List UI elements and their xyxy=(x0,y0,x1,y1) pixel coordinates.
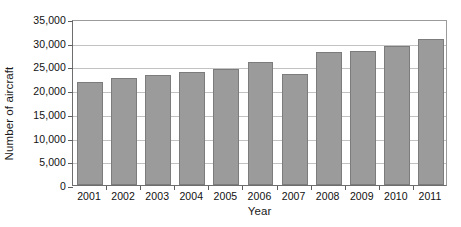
y-axis-tick xyxy=(68,116,73,117)
bar-chart-figure: Number of aircraft 05,00010,00015,00020,… xyxy=(0,0,461,227)
y-axis-tick-label: 15,000 xyxy=(0,109,66,121)
x-axis-title: Year xyxy=(72,205,447,217)
y-axis-tick xyxy=(68,92,73,93)
bar xyxy=(111,78,137,185)
bar xyxy=(384,46,410,185)
x-axis-tick-label: 2006 xyxy=(248,190,272,202)
y-axis-tick-label: 35,000 xyxy=(0,14,66,26)
plot-area xyxy=(72,20,447,186)
bar xyxy=(418,39,444,185)
x-axis-tick-label: 2007 xyxy=(282,190,306,202)
x-axis-tick-label: 2009 xyxy=(350,190,374,202)
bar xyxy=(316,52,342,185)
x-axis-tick-label: 2001 xyxy=(77,190,101,202)
bar xyxy=(350,51,376,185)
x-axis-tick-label: 2004 xyxy=(179,190,203,202)
y-axis-tick-labels: 05,00010,00015,00020,00025,00030,00035,0… xyxy=(0,20,66,186)
y-axis-tick xyxy=(68,140,73,141)
y-axis-tick xyxy=(68,45,73,46)
y-axis-tick-label: 0 xyxy=(0,180,66,192)
y-axis-tick-label: 5,000 xyxy=(0,156,66,168)
y-axis-tick xyxy=(68,21,73,22)
y-axis-tick-label: 20,000 xyxy=(0,85,66,97)
x-axis-tick-label: 2011 xyxy=(418,190,441,202)
x-axis-tick-label: 2005 xyxy=(214,190,238,202)
bar xyxy=(77,82,103,185)
y-axis-tick-label: 30,000 xyxy=(0,38,66,50)
bar xyxy=(248,62,274,185)
y-axis-tick xyxy=(68,163,73,164)
x-axis-tick-label: 2010 xyxy=(384,190,408,202)
x-axis-tick-label: 2003 xyxy=(145,190,169,202)
bar xyxy=(145,75,171,185)
x-axis-tick-labels: 2001200220032004200520062007200820092010… xyxy=(72,190,447,206)
x-axis-tick-label: 2008 xyxy=(316,190,340,202)
bar xyxy=(179,72,205,185)
bar xyxy=(213,69,239,185)
y-axis-tick-label: 10,000 xyxy=(0,133,66,145)
x-axis-tick-label: 2002 xyxy=(111,190,135,202)
y-axis-tick-label: 25,000 xyxy=(0,61,66,73)
y-axis-tick xyxy=(68,68,73,69)
bar xyxy=(282,74,308,185)
